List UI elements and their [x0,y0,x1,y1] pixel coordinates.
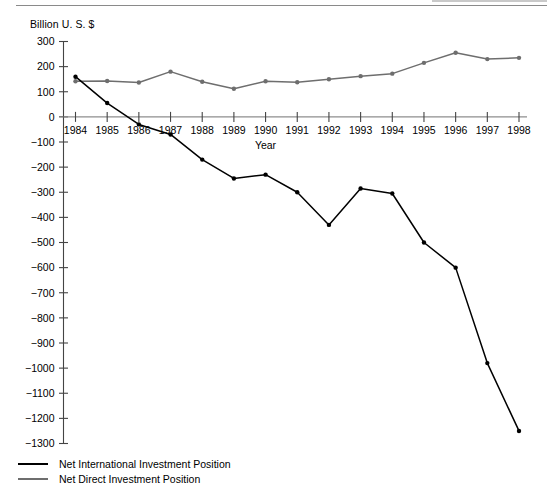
data-point [390,71,394,75]
data-point [73,74,77,78]
y-tick-label: −400 [31,211,55,223]
line-chart-plot: 3002001000−100−200−300−400−500−600−700−8… [0,0,547,494]
figure-container: Billion U. S. $ 3002001000−100−200−300−4… [0,0,547,494]
data-point [73,79,77,83]
data-point [327,77,331,81]
y-tick-label: 200 [37,60,55,72]
y-tick-label: −1100 [26,387,55,399]
x-tick-label: 1992 [317,124,341,136]
data-point [200,157,204,161]
y-tick-label: 0 [49,111,55,123]
y-tick-label: −800 [31,312,55,324]
x-axis-title: Year [0,139,547,151]
x-tick-label: 1994 [381,124,405,136]
x-tick-label: 1995 [412,124,436,136]
data-point [137,80,141,84]
x-tick-label: 1993 [349,124,373,136]
data-point [232,176,236,180]
x-tick-label: 1985 [95,124,119,136]
y-tick-label: −900 [31,337,55,349]
data-point [517,429,521,433]
data-point [485,361,489,365]
y-tick-label: −1300 [25,437,55,449]
data-point [453,265,457,269]
data-point [137,122,141,126]
legend-item: Net Direct Investment Position [18,471,538,486]
legend-item: Net International Investment Position [18,456,538,471]
data-point [168,69,172,73]
data-point [232,87,236,91]
data-point [105,101,109,105]
data-point [263,172,267,176]
data-point [358,186,362,190]
y-tick-label: −1200 [25,412,55,424]
x-axis-title-text: Year [255,139,276,151]
data-point [200,80,204,84]
x-tick-label: 1997 [476,124,500,136]
legend-swatch-net-international [18,463,48,465]
data-point [422,61,426,65]
data-point [422,240,426,244]
data-point [263,79,267,83]
x-tick-label: 1988 [191,124,215,136]
legend-label-net-direct: Net Direct Investment Position [59,473,200,485]
y-tick-label: −700 [31,287,55,299]
data-point [358,74,362,78]
x-tick-label: 1989 [222,124,246,136]
data-point [105,79,109,83]
x-tick-label: 1990 [254,124,278,136]
legend-label-net-international: Net International Investment Position [59,458,231,470]
data-point [168,132,172,136]
data-point [295,190,299,194]
y-tick-label: 300 [37,35,55,47]
y-tick-label: −300 [31,186,55,198]
x-tick-label: 1984 [64,124,88,136]
legend-swatch-net-direct [18,478,48,480]
data-point [517,56,521,60]
y-tick-label: −500 [31,236,55,248]
chart-legend: Net International Investment Position Ne… [18,456,538,486]
data-point [327,223,331,227]
y-tick-label: −1000 [25,362,55,374]
y-tick-label: −200 [31,161,55,173]
y-tick-label: −600 [31,261,55,273]
y-tick-label: 100 [37,86,55,98]
x-tick-label: 1991 [286,124,310,136]
series-net-direct [73,51,521,91]
data-point [485,57,489,61]
data-point [453,51,457,55]
x-tick-label: 1998 [507,124,531,136]
data-point [295,80,299,84]
data-point [390,191,394,195]
x-tick-label: 1996 [444,124,468,136]
